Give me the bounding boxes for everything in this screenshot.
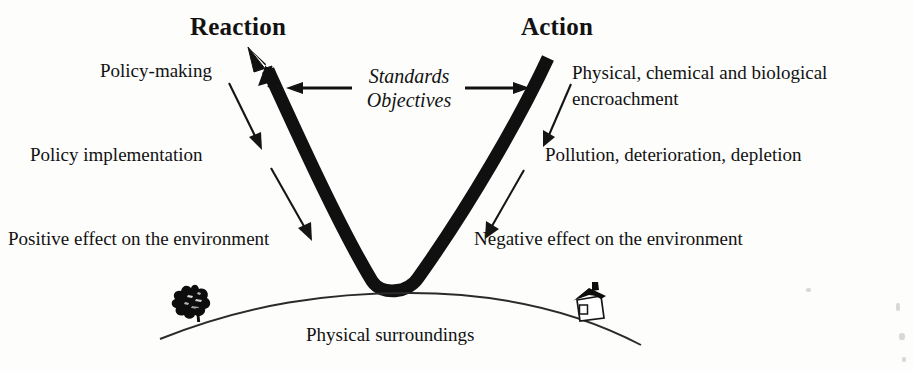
scan-speck: [896, 303, 900, 311]
label-pollution: Pollution, deterioration, depletion: [545, 144, 801, 166]
scan-speck: [899, 333, 905, 340]
connector-arrow-encroachment-to-pollution: [543, 84, 571, 147]
label-objectives: Objectives: [356, 88, 462, 112]
label-encroachment-line1: Physical, chemical and biological: [572, 62, 827, 84]
arrow-left-icon: [286, 82, 352, 94]
label-physical-surroundings: Physical surroundings: [306, 324, 474, 346]
label-policy-making: Policy-making: [100, 60, 212, 82]
label-negative-effect: Negative effect on the environment: [474, 228, 743, 250]
label-standards: Standards: [356, 64, 462, 88]
house-icon: [573, 282, 606, 321]
label-positive-effect: Positive effect on the environment: [8, 228, 269, 250]
label-policy-implementation: Policy implementation: [30, 144, 203, 166]
page-title-reaction: Reaction: [190, 12, 286, 42]
diagram-artwork: [0, 0, 914, 371]
page-title-action: Action: [521, 12, 593, 42]
scan-speck: [902, 357, 906, 362]
label-encroachment-line2: encroachment: [572, 88, 679, 110]
scan-speck: [806, 288, 811, 292]
connector-arrow-implementation-to-positive-effect: [271, 168, 312, 241]
arrow-right-icon: [465, 82, 530, 94]
tree-icon: [172, 285, 210, 322]
diagram-canvas: Reaction Action Policy-making Policy imp…: [0, 0, 914, 371]
connector-arrow-policy-making-to-implementation: [229, 83, 262, 150]
